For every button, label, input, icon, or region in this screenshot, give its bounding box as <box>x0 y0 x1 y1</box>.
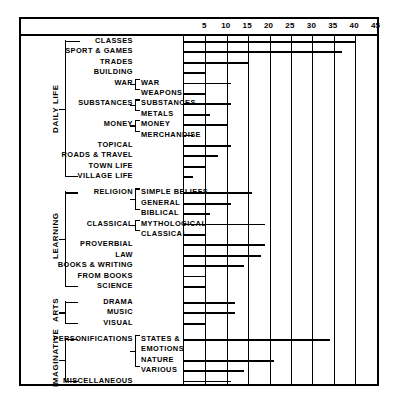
bar <box>184 124 227 126</box>
row-label-primary: SUBSTANCES <box>21 99 133 107</box>
row-label-secondary: METALS <box>141 110 174 118</box>
row-label-primary: CLASSICAL <box>21 220 133 228</box>
sub-bracket-arm <box>135 188 140 189</box>
group-bracket-arm <box>65 302 78 303</box>
row-label-primary: TRADES <box>21 58 133 66</box>
sub-bracket-arm <box>135 79 140 80</box>
sub-bracket-arm <box>135 89 140 90</box>
bar <box>184 312 235 314</box>
plot-area <box>183 36 377 384</box>
bar <box>184 370 244 372</box>
group-bracket-arm <box>65 176 78 177</box>
row-label-secondary: VARIOUS <box>141 366 177 374</box>
sub-bracket-stem <box>130 84 136 85</box>
group-title: IMAGINATIVE <box>51 328 60 386</box>
group-title: DAILY LIFE <box>51 84 60 133</box>
x-axis-tick-label: 15 <box>243 21 252 30</box>
gridline <box>270 36 271 384</box>
row-label-primary: FROM BOOKS <box>21 272 133 280</box>
sub-bracket-arm <box>135 209 140 210</box>
row-label-secondary: WEAPONS <box>141 89 182 97</box>
sub-bracket-arm <box>135 99 140 100</box>
sub-bracket-arm <box>135 366 140 367</box>
bar <box>184 265 244 267</box>
gridline <box>291 36 292 384</box>
row-label-primary: TOWN LIFE <box>21 162 133 170</box>
hierarchical-bar-chart: 51015202530354045 CLASSESSPORT & GAMESTR… <box>19 17 379 386</box>
group-bracket-arm <box>65 381 78 382</box>
category-label-panel: CLASSESSPORT & GAMESTRADESBUILDINGWARWAR… <box>21 36 183 384</box>
sub-bracket-stem <box>130 199 136 200</box>
row-label-secondary: CLASSICAL <box>141 230 187 238</box>
row-label-secondary: STATES & <box>141 335 180 343</box>
x-axis-tick-label: 10 <box>221 21 230 30</box>
bar <box>184 302 235 304</box>
sub-bracket-arm <box>135 131 140 132</box>
x-axis-tick-label: 5 <box>202 21 207 30</box>
group-title: LEARNING <box>51 212 60 259</box>
sub-bracket-arm <box>135 110 140 111</box>
bar <box>184 93 205 95</box>
sub-bracket-stem <box>130 105 136 106</box>
bar <box>184 155 218 157</box>
row-label-secondary: MONEY <box>141 120 170 128</box>
gridline <box>248 36 249 384</box>
sub-bracket-arm <box>135 230 140 231</box>
x-axis-strip: 51015202530354045 <box>21 19 377 36</box>
row-label-primary: LAW <box>21 251 133 259</box>
row-label-secondary: EMOTIONS <box>141 345 184 353</box>
gridline <box>205 36 206 384</box>
bar <box>184 51 342 53</box>
bar <box>184 244 265 246</box>
row-label-secondary: NATURE <box>141 356 174 364</box>
bar <box>184 145 231 147</box>
bar <box>184 360 274 362</box>
x-axis-tick-label: 25 <box>285 21 294 30</box>
row-label-secondary: WAR <box>141 79 160 87</box>
group-bracket-arm <box>65 192 78 193</box>
group-title: ARTS <box>51 298 60 322</box>
row-connector <box>68 41 80 42</box>
row-label-primary: ROADS & TRAVEL <box>21 151 133 159</box>
bar <box>184 135 193 137</box>
sub-bracket-stem <box>130 351 136 352</box>
group-bracket-stem <box>59 312 66 313</box>
gridline <box>227 36 228 384</box>
row-label-primary: MUSIC <box>21 308 133 316</box>
bar <box>184 276 205 278</box>
row-label-primary: WAR <box>21 79 133 87</box>
gridline <box>355 36 356 384</box>
bar <box>184 62 248 64</box>
bar <box>184 255 261 257</box>
row-label-secondary: GENERAL <box>141 199 180 207</box>
sub-bracket-arm <box>135 120 140 121</box>
group-bracket-stem <box>59 239 66 240</box>
row-label-primary: MONEY <box>21 120 133 128</box>
sub-bracket-stem <box>130 125 136 126</box>
sub-bracket-arm <box>135 220 140 221</box>
row-label-primary: PROVERBIAL <box>21 240 133 248</box>
bar <box>184 203 231 205</box>
group-bracket-arm <box>65 286 78 287</box>
row-label-primary: BOOKS & WRITING <box>21 261 133 269</box>
bar <box>184 286 205 288</box>
bar <box>184 83 231 85</box>
bar <box>184 224 265 226</box>
bar <box>184 114 210 116</box>
x-axis-tick-label: 35 <box>328 21 337 30</box>
row-label-secondary: BIBLICAL <box>141 209 179 217</box>
x-axis-tick-label: 45 <box>371 21 380 30</box>
row-label-primary: TOPICAL <box>21 141 133 149</box>
gridline <box>377 36 378 384</box>
row-label-primary: SPORT & GAMES <box>21 47 133 55</box>
gridline <box>334 36 335 384</box>
bar <box>184 381 231 383</box>
group-bracket-arm <box>65 323 78 324</box>
sub-bracket-arm <box>135 335 140 336</box>
sub-bracket-stem <box>130 225 136 226</box>
group-bracket-stem <box>59 109 66 110</box>
bar <box>184 213 210 215</box>
group-bracket-arm <box>65 339 78 340</box>
gridline <box>312 36 313 384</box>
x-axis-tick-label: 20 <box>264 21 273 30</box>
